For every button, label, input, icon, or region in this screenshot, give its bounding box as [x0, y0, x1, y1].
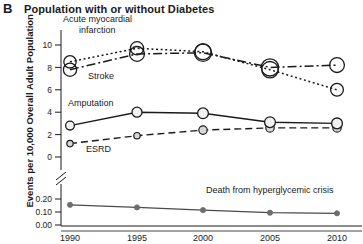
y-tick-2: 2 — [47, 130, 52, 140]
annotation-esrd: ESRD — [86, 144, 112, 154]
series-annotations: Acute myocardial infarction Stroke Amput… — [63, 14, 334, 195]
x-tick-2000: 2000 — [193, 233, 213, 243]
x-tick-2005: 2005 — [260, 233, 280, 243]
x-axis-ticks: 1990 1995 2000 2005 2010 — [60, 233, 347, 243]
annotation-stroke: Stroke — [88, 71, 114, 81]
y-tick-4: 4 — [47, 107, 52, 117]
y-tick-000: 0.00 — [35, 220, 52, 230]
y-tick-8: 8 — [47, 63, 52, 73]
annotation-ami-line1: Acute myocardial — [63, 14, 132, 24]
series-acute-myocardial-infarction — [64, 42, 344, 97]
x-tick-2010: 2010 — [327, 233, 347, 243]
series-death-hyperglycemic-crisis — [67, 202, 339, 216]
annotation-amputation: Amputation — [68, 98, 114, 108]
y-tick-010: 0.10 — [35, 207, 52, 217]
chart-svg: 10 8 6 4 2 0 0.20 0.10 0.00 1990 1995 20… — [0, 0, 363, 244]
x-tick-1995: 1995 — [127, 233, 147, 243]
y-axis-upper-ticks: 10 8 6 4 2 0 — [43, 40, 61, 162]
chart-panel: B Population with or without Diabetes Ev… — [0, 0, 363, 244]
annotation-hyperglycemic-crisis: Death from hyperglycemic crisis — [206, 185, 334, 195]
annotation-ami-line2: infarction — [79, 25, 116, 35]
axis-break-icon — [56, 172, 66, 185]
x-tick-1990: 1990 — [60, 233, 80, 243]
y-tick-6: 6 — [47, 85, 52, 95]
y-tick-10: 10 — [43, 40, 53, 50]
y-axis-lower-ticks: 0.20 0.10 0.00 — [35, 194, 61, 230]
axis-lines — [61, 30, 362, 231]
y-tick-0: 0 — [47, 152, 52, 162]
y-tick-020: 0.20 — [35, 194, 52, 204]
